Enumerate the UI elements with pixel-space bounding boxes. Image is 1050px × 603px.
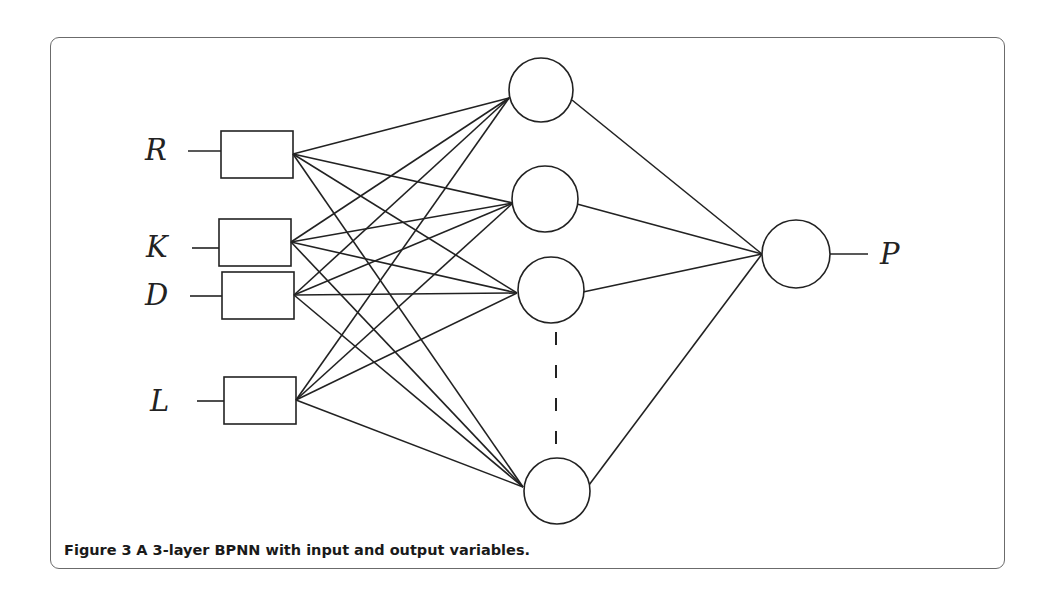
bpnn-diagram: R K D L P [0,0,1050,603]
input-label-R: R [144,133,167,167]
input-box-K [219,219,291,266]
input-box-L [224,377,296,424]
input-box-D [222,272,294,319]
hidden-node-2 [512,166,578,232]
input-label-L: L [149,384,169,418]
output-node [762,220,830,288]
figure-caption-text: A 3-layer BPNN with input and output var… [136,542,530,558]
hidden-node-1 [509,58,573,122]
figure-number: Figure 3 [64,542,132,558]
input-label-K: K [145,230,170,264]
input-node-D [190,272,294,319]
input-label-D: D [144,278,168,312]
hidden-node-n [524,458,590,524]
output-label-P: P [879,237,900,271]
input-node-L [197,377,296,424]
figure-caption: Figure 3 A 3-layer BPNN with input and o… [64,542,530,558]
input-hidden-edges [291,98,523,487]
input-box-R [221,131,293,178]
input-node-K [192,219,291,266]
hidden-output-edges [572,100,762,485]
hidden-node-3 [518,257,584,323]
input-node-R [188,131,293,178]
